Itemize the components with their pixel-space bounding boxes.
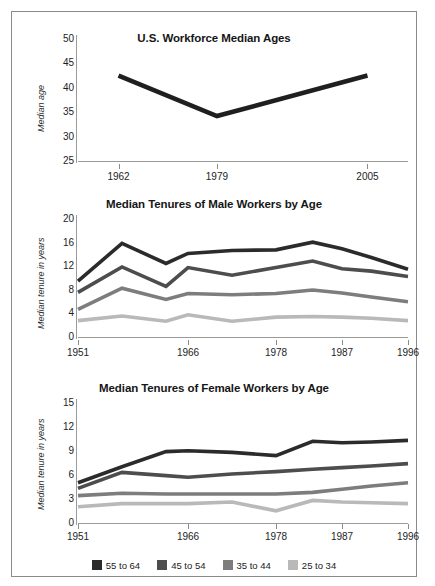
x-tick-mark bbox=[367, 164, 368, 169]
x-axis-ticks: 19511966197819871996 bbox=[78, 524, 408, 546]
y-tick-label: 0 bbox=[68, 331, 74, 342]
x-tick-label: 1996 bbox=[397, 531, 419, 542]
y-tick-label: 35 bbox=[63, 106, 74, 117]
line-series bbox=[78, 483, 408, 496]
legend: 55 to 6445 to 5435 to 4425 to 34 bbox=[12, 556, 416, 574]
y-axis-label: Median tenure in years bbox=[36, 418, 46, 510]
line-series bbox=[78, 440, 408, 482]
y-axis-label: Median age bbox=[36, 85, 46, 132]
x-tick-mark bbox=[408, 340, 409, 345]
x-tick-label: 1979 bbox=[206, 171, 228, 182]
line-series bbox=[78, 242, 408, 281]
x-tick-label: 1966 bbox=[177, 531, 199, 542]
legend-swatch-icon bbox=[288, 560, 298, 570]
chart-title: Median Tenures of Male Workers by Age bbox=[12, 198, 416, 210]
y-tick-label: 20 bbox=[63, 213, 74, 224]
y-tick-label: 15 bbox=[63, 397, 74, 408]
legend-label: 35 to 44 bbox=[237, 560, 271, 571]
chart-title: Median Tenures of Female Workers by Age bbox=[12, 382, 416, 394]
x-tick-label: 1962 bbox=[107, 171, 129, 182]
chart-panel-female-tenures: Median Tenures of Female Workers by Age … bbox=[12, 374, 416, 552]
y-tick-label: 40 bbox=[63, 81, 74, 92]
x-axis-line bbox=[78, 161, 408, 162]
x-tick-mark bbox=[78, 524, 79, 529]
line-series bbox=[78, 288, 408, 309]
y-tick-label: 3 bbox=[68, 493, 74, 504]
line-series bbox=[119, 76, 368, 117]
y-tick-label: 9 bbox=[68, 445, 74, 456]
y-axis-line bbox=[76, 35, 77, 163]
x-tick-label: 1996 bbox=[397, 347, 419, 358]
y-tick-label: 6 bbox=[68, 469, 74, 480]
x-tick-mark bbox=[276, 524, 277, 529]
y-axis-label: Median tenure in years bbox=[36, 237, 46, 329]
line-series-group bbox=[78, 402, 408, 522]
x-tick-label: 1978 bbox=[265, 347, 287, 358]
x-tick-label: 1966 bbox=[177, 347, 199, 358]
x-tick-mark bbox=[188, 524, 189, 529]
legend-swatch-icon bbox=[223, 560, 233, 570]
chart-panel-male-tenures: Median Tenures of Male Workers by Age Me… bbox=[12, 192, 416, 374]
line-series bbox=[78, 315, 408, 321]
legend-swatch-icon bbox=[157, 560, 167, 570]
x-tick-mark bbox=[217, 164, 218, 169]
plot-area bbox=[78, 402, 408, 522]
y-tick-label: 30 bbox=[63, 130, 74, 141]
plot-area bbox=[78, 218, 408, 336]
x-tick-mark bbox=[119, 164, 120, 169]
y-tick-label: 8 bbox=[68, 283, 74, 294]
chart-panel-workforce-median-ages: U.S. Workforce Median Ages Median age 25… bbox=[12, 14, 416, 192]
legend-label: 45 to 54 bbox=[171, 560, 205, 571]
legend-label: 25 to 34 bbox=[302, 560, 336, 571]
x-tick-mark bbox=[78, 340, 79, 345]
x-tick-mark bbox=[276, 340, 277, 345]
x-axis-ticks: 19511966197819871996 bbox=[78, 340, 408, 362]
y-tick-label: 45 bbox=[63, 57, 74, 68]
y-tick-label: 16 bbox=[63, 236, 74, 247]
line-series bbox=[78, 261, 408, 292]
y-axis-ticks: 048121620 bbox=[46, 218, 74, 336]
figure-frame: U.S. Workforce Median Ages Median age 25… bbox=[11, 11, 417, 577]
x-tick-mark bbox=[408, 524, 409, 529]
line-series-group bbox=[78, 218, 408, 336]
y-axis-ticks: 03691215 bbox=[46, 402, 74, 522]
legend-item: 25 to 34 bbox=[288, 560, 336, 571]
y-tick-label: 12 bbox=[63, 260, 74, 271]
line-series bbox=[78, 464, 408, 489]
legend-item: 45 to 54 bbox=[157, 560, 205, 571]
x-tick-label: 1951 bbox=[67, 531, 89, 542]
line-series bbox=[78, 500, 408, 510]
x-tick-label: 1978 bbox=[265, 531, 287, 542]
y-tick-label: 4 bbox=[68, 307, 74, 318]
legend-item: 55 to 64 bbox=[92, 560, 140, 571]
y-axis-line bbox=[76, 215, 77, 339]
y-tick-label: 25 bbox=[63, 155, 74, 166]
x-tick-label: 1987 bbox=[331, 347, 353, 358]
x-axis-line bbox=[78, 337, 408, 338]
y-tick-label: 12 bbox=[63, 421, 74, 432]
x-axis-ticks: 196219792005 bbox=[78, 164, 408, 186]
x-tick-mark bbox=[342, 340, 343, 345]
legend-swatch-icon bbox=[92, 560, 102, 570]
x-tick-label: 1987 bbox=[331, 531, 353, 542]
legend-item: 35 to 44 bbox=[223, 560, 271, 571]
x-tick-label: 2005 bbox=[356, 171, 378, 182]
y-tick-label: 50 bbox=[63, 33, 74, 44]
x-tick-mark bbox=[188, 340, 189, 345]
x-tick-mark bbox=[342, 524, 343, 529]
plot-area bbox=[78, 38, 408, 160]
y-tick-label: 0 bbox=[68, 517, 74, 528]
line-series-group bbox=[78, 38, 408, 160]
y-axis-line bbox=[76, 399, 77, 525]
y-axis-ticks: 253035404550 bbox=[46, 38, 74, 160]
legend-label: 55 to 64 bbox=[106, 560, 140, 571]
x-tick-label: 1951 bbox=[67, 347, 89, 358]
